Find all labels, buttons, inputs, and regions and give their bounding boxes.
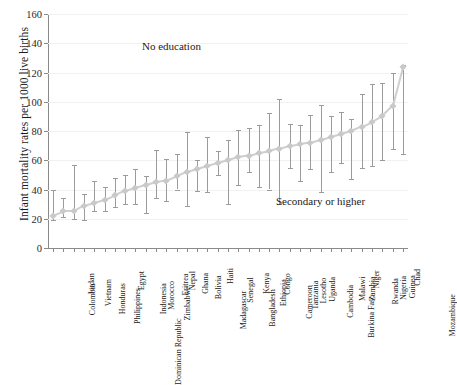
y-axis-tick — [44, 102, 48, 103]
x-axis-tick-label: Bolivia — [213, 276, 222, 300]
y-axis-tick-label: 80 — [32, 126, 43, 137]
error-bar-cap — [51, 220, 56, 221]
x-axis-tick-label: Nepal — [188, 271, 197, 290]
error-bar-cap — [185, 206, 190, 207]
error-bar-cap — [133, 169, 138, 170]
error-bar — [403, 65, 404, 154]
y-axis-tick — [44, 248, 48, 249]
error-bar-cap — [401, 154, 406, 155]
error-bar-cap — [226, 140, 231, 141]
error-bar-cap — [82, 220, 87, 221]
y-axis-tick — [44, 73, 48, 74]
x-axis-tick-label: Vietnam — [104, 279, 113, 306]
data-point-marker[interactable] — [173, 173, 180, 180]
error-bar-cap — [113, 207, 118, 208]
gridline — [48, 219, 408, 220]
x-axis-tick-label: Burkina Faso — [366, 295, 375, 338]
x-axis-tick-label: Lesotho — [318, 278, 327, 304]
x-axis-tick-label: Bangladesh — [268, 289, 277, 326]
error-bar-cap — [216, 151, 221, 152]
error-bar — [321, 105, 322, 193]
x-axis-tick-label: Cambodia — [346, 285, 355, 318]
error-bar-cap — [185, 132, 190, 133]
y-axis-tick — [44, 131, 48, 132]
error-bar-cap — [308, 115, 313, 116]
data-point-marker[interactable] — [255, 149, 262, 156]
error-bar-cap — [205, 192, 210, 193]
error-bar-cap — [92, 181, 97, 182]
error-bar-cap — [144, 213, 149, 214]
error-bar-cap — [195, 191, 200, 192]
error-bar-cap — [236, 130, 241, 131]
error-bar-cap — [154, 150, 159, 151]
error-bar-cap — [360, 168, 365, 169]
error-bar-cap — [298, 181, 303, 182]
error-bar-cap — [123, 204, 128, 205]
error-bar-cap — [380, 160, 385, 161]
error-bar-cap — [133, 204, 138, 205]
y-axis-tick-label: 0 — [37, 243, 42, 254]
error-bar-cap — [391, 73, 396, 74]
x-axis-tick-label: Jordan — [88, 273, 97, 294]
x-axis-tick-label: Kenya — [262, 273, 271, 294]
error-bar-cap — [360, 94, 365, 95]
error-bar-cap — [267, 190, 272, 191]
error-bar-cap — [319, 105, 324, 106]
error-bar-cap — [277, 99, 282, 100]
error-bar-cap — [164, 201, 169, 202]
error-bar-cap — [51, 190, 56, 191]
error-bar-cap — [319, 192, 324, 193]
error-bar-cap — [349, 119, 354, 120]
error-bar-cap — [370, 84, 375, 85]
y-axis-tick-label: 100 — [26, 96, 42, 107]
error-bar-cap — [216, 175, 221, 176]
data-point-marker[interactable] — [286, 142, 293, 149]
x-axis-tick-label: Mozambique — [448, 294, 457, 336]
y-axis-tick-label: 40 — [32, 184, 43, 195]
data-point-marker[interactable] — [70, 208, 77, 215]
y-axis-tick-label: 140 — [26, 38, 42, 49]
error-bar-cap — [329, 172, 334, 173]
y-axis-tick — [44, 219, 48, 220]
error-bar-cap — [103, 211, 108, 212]
gridline — [48, 14, 408, 15]
data-point-marker[interactable] — [214, 160, 221, 167]
x-axis-tick-label: Morocco — [167, 281, 176, 310]
error-bar-cap — [391, 149, 396, 150]
error-bar-cap — [226, 204, 231, 205]
y-axis-tick-label: 20 — [32, 213, 43, 224]
error-bar — [341, 112, 342, 163]
error-bar — [382, 83, 383, 161]
error-bar-cap — [72, 165, 77, 166]
x-axis-tick-label: Ghana — [200, 273, 209, 294]
y-axis-tick — [44, 43, 48, 44]
error-bar-cap — [329, 116, 334, 117]
error-bar-cap — [267, 113, 272, 114]
error-bar-cap — [61, 217, 66, 218]
error-bar-cap — [257, 187, 262, 188]
x-axis-tick-label: Niger — [373, 270, 382, 288]
error-bar-cap — [339, 163, 344, 164]
error-bar-cap — [247, 128, 252, 129]
annotation-no-education: No education — [142, 40, 201, 52]
error-bar-cap — [164, 159, 169, 160]
x-axis-tick-label: Honduras — [118, 283, 127, 314]
error-bar — [331, 116, 332, 172]
x-axis-tick-label: Dominican Republic — [174, 318, 183, 384]
x-axis-tick-label: Nigeria — [399, 276, 408, 300]
data-point-marker[interactable] — [60, 208, 67, 215]
error-bar-cap — [175, 154, 180, 155]
x-axis-tick-label: Senegal — [246, 277, 255, 302]
error-bar-cap — [82, 194, 87, 195]
error-bar-cap — [380, 83, 385, 84]
gridline — [48, 43, 408, 44]
error-bar — [300, 125, 301, 181]
y-axis-tick-label: 160 — [26, 9, 42, 20]
error-bar-cap — [308, 169, 313, 170]
error-bar-cap — [175, 190, 180, 191]
y-axis-tick — [44, 14, 48, 15]
error-bar-cap — [349, 179, 354, 180]
error-bar-cap — [92, 211, 97, 212]
gridline — [48, 102, 408, 103]
